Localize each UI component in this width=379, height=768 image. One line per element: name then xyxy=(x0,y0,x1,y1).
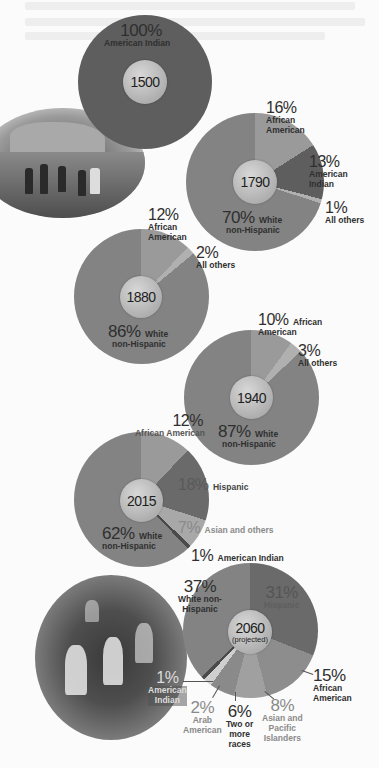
label-white-1790: 70% White non-Hispanic xyxy=(222,209,282,236)
label-american-indian-2015: 1% American Indian xyxy=(191,548,284,564)
label-african-american-1880: 12% African American xyxy=(148,207,187,243)
label-arab-american-2060: 2% Arab American xyxy=(183,699,222,736)
label-hispanic-2060: 31% Hispanic xyxy=(264,584,299,611)
label-white-2060: 37% White non- Hispanic xyxy=(178,578,222,615)
label-white-1880: 86% White non-Hispanic xyxy=(108,323,168,350)
label-american-indian-2060: 1% American Indian xyxy=(148,670,187,706)
label-american-indian-1500: 100% American Indian xyxy=(112,22,170,49)
background-text-line xyxy=(25,18,365,26)
label-all-others-1790: 1% All others xyxy=(325,200,364,226)
label-hispanic-2015: 18% Hispanic xyxy=(178,477,248,493)
year-label: 1500 xyxy=(130,74,159,90)
leader-line-african-american xyxy=(302,670,314,675)
year-badge-1790: 1790 xyxy=(233,160,277,204)
label-white-2015: 62% White non-Hispanic xyxy=(102,525,162,552)
leader-line-american-indian xyxy=(183,681,213,682)
year-badge-2015: 2015 xyxy=(120,479,163,522)
label-asian-others-2015: 7% Asian and others xyxy=(178,520,274,536)
label-african-american-1790: 16% African American xyxy=(266,100,305,136)
label-african-american-2060: 15% African American xyxy=(313,667,352,704)
modern-crowd-photo xyxy=(35,575,187,740)
label-all-others-1880: 2% All others xyxy=(196,245,235,271)
leader-line-two-or-more xyxy=(235,692,236,701)
year-badge-2060: 2060 (projected) xyxy=(228,610,272,654)
year-badge-1500: 1500 xyxy=(123,60,167,104)
label-american-indian-1790: 13% American Indian xyxy=(309,154,348,190)
label-all-others-1940: 3% All others xyxy=(298,343,337,369)
label-white-1940: 87% White non-Hispanic xyxy=(218,423,278,450)
year-badge-1880: 1880 xyxy=(120,276,162,318)
label-african-american-1940: 10% African American xyxy=(258,312,322,338)
year-badge-1940: 1940 xyxy=(230,376,273,419)
label-african-american-2015: 12% African American xyxy=(97,413,205,439)
label-two-or-more-2060: 6% Two or more races xyxy=(226,703,253,749)
background-text-line xyxy=(25,2,355,10)
label-asian-pacific-2060: 8% Asian and Pacific Islanders xyxy=(262,697,303,743)
